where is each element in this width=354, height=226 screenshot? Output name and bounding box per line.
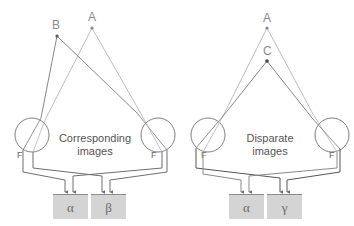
fovea-label: F [17,150,23,160]
fovea-label: F [201,150,207,160]
caption-line2: images [252,145,288,157]
caption-line1: Corresponding [59,132,131,144]
point-b-label: B [52,18,60,32]
right-eye: F [137,112,175,160]
left-panel-corresponding: B A F F Corresponding images α [15,10,175,219]
fiber-right-eye-inner [73,152,162,192]
cell-label: α [67,200,74,215]
ray-a-left-eye [222,28,267,118]
right-eye: F [312,114,349,160]
cell-label: α [243,200,250,215]
ray-b-right-eye [57,36,137,113]
point-b [55,34,58,37]
cortical-cell-gamma: γ [267,194,302,219]
eye-circle-icon [191,118,225,152]
point-c [265,59,269,63]
ray-a-left-eye [45,28,92,120]
ray-b-left-eye [41,36,57,118]
point-a-label: A [263,11,271,25]
caption-line2: images [77,145,113,157]
point-a [265,26,268,29]
caption-line1: Disparate [246,132,293,144]
ray-a-right-eye [267,28,313,114]
ray-c-left-eye [224,61,267,115]
fovea-label: F [329,150,335,160]
fovea-label: F [151,150,157,160]
cell-label: γ [281,200,288,215]
fiber-left-eye-inner [203,152,241,192]
fiber-right-eye-outer [110,150,167,192]
point-a [90,26,93,29]
binocular-disparity-diagram: B A F F Corresponding images α [0,0,354,226]
cortical-cell-alpha: α [53,194,88,219]
eye-circle-icon [315,118,349,152]
cortical-cell-alpha: α [229,194,264,219]
fiber-right-eye-inner [249,152,337,192]
ray-a-right-eye [92,28,140,112]
fiber-left-eye-inner [33,152,102,192]
right-panel-disparate: A C F F Disparate images α [191,11,349,219]
point-c-label: C [263,44,272,58]
cortical-cell-beta: β [91,194,126,219]
cell-label: β [105,200,112,215]
left-eye: F [15,118,49,160]
point-a-label: A [88,10,96,24]
